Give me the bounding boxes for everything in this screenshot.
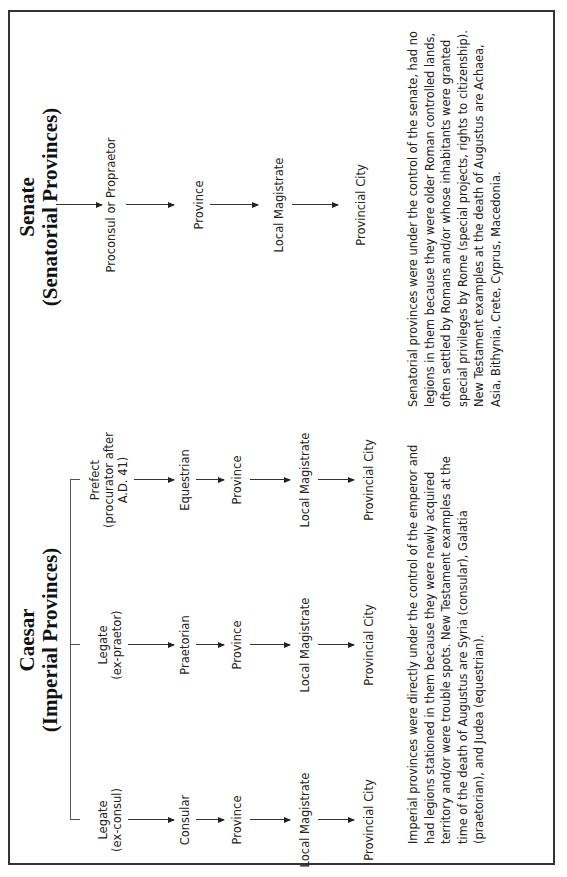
- senatorial-description: Senatorial provinces were under the cont…: [405, 17, 505, 407]
- imperial-col2-unit: Province: [230, 595, 244, 695]
- arrow-down-icon: [134, 479, 174, 480]
- senatorial-city: Provincial City: [354, 155, 368, 255]
- arrow-down-icon: [250, 644, 290, 645]
- office-subtitle: (ex-praetor): [110, 595, 124, 695]
- imperial-col2-local: Local Magistrate: [298, 595, 312, 695]
- imperial-col3-office: Prefect (procurator after A.D. 41): [88, 425, 130, 535]
- imperial-col1-office: Legate (ex-consul): [96, 770, 124, 870]
- imperial-col3-city: Provincial City: [362, 430, 376, 530]
- senatorial-local: Local Magistrate: [272, 155, 286, 255]
- arrow-down-icon: [250, 479, 290, 480]
- arrow-down-icon: [56, 204, 102, 205]
- imperial-col2-rank: Praetorian: [178, 595, 192, 695]
- arrow-down-icon: [196, 644, 224, 645]
- arrow-down-icon: [128, 644, 174, 645]
- imperial-heading-subtitle: (Imperial Provinces): [39, 540, 62, 740]
- arrow-down-icon: [250, 819, 290, 820]
- bracket-tick-prefect: [70, 479, 80, 480]
- office-subtitle-date: A.D. 41): [116, 425, 130, 535]
- arrow-down-icon: [196, 479, 224, 480]
- bracket-tick-praetor: [70, 644, 80, 645]
- arrow-down-icon: [292, 204, 338, 205]
- arrow-down-icon: [318, 819, 354, 820]
- arrow-down-icon: [318, 644, 354, 645]
- office-title: Prefect: [88, 425, 102, 535]
- rotated-page: Caesar (Imperial Provinces) Legate (ex-c…: [0, 0, 567, 877]
- office-title: Legate: [96, 770, 110, 870]
- imperial-col2-office: Legate (ex-praetor): [96, 595, 124, 695]
- imperial-col1-rank: Consular: [178, 770, 192, 870]
- senatorial-heading: Senate (Senatorial Provinces): [16, 87, 62, 327]
- office-title: Legate: [96, 595, 110, 695]
- arrow-down-icon: [128, 819, 174, 820]
- arrow-down-icon: [196, 819, 224, 820]
- imperial-bracket-line: [70, 479, 71, 820]
- imperial-col1-unit: Province: [230, 770, 244, 870]
- imperial-col3-local: Local Magistrate: [298, 430, 312, 530]
- senatorial-office: Proconsul or Propraetor: [104, 130, 118, 280]
- imperial-description: Imperial provinces were directly under t…: [405, 436, 488, 844]
- imperial-heading-title: Caesar: [16, 540, 39, 740]
- arrow-down-icon: [126, 204, 174, 205]
- arrow-down-icon: [318, 479, 354, 480]
- senatorial-unit: Province: [192, 155, 206, 255]
- office-subtitle: (procurator after: [102, 425, 116, 535]
- senatorial-heading-subtitle: (Senatorial Provinces): [39, 87, 62, 327]
- senatorial-heading-title: Senate: [16, 87, 39, 327]
- arrow-down-icon: [210, 204, 258, 205]
- imperial-col1-city: Provincial City: [362, 770, 376, 870]
- imperial-col2-city: Provincial City: [362, 595, 376, 695]
- office-subtitle: (ex-consul): [110, 770, 124, 870]
- imperial-col3-rank: Equestrian: [178, 430, 192, 530]
- imperial-col3-unit: Province: [230, 430, 244, 530]
- imperial-heading: Caesar (Imperial Provinces): [16, 540, 62, 740]
- bracket-tick-consul: [70, 819, 80, 820]
- imperial-col1-local: Local Magistrate: [298, 770, 312, 870]
